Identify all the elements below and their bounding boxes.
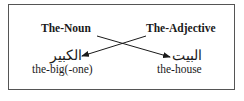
gloss-the-big-one: the-big(-one) <box>32 63 93 75</box>
arabic-the-big: الكبير <box>50 47 82 64</box>
arabic-the-house: البيت <box>172 47 202 64</box>
arrow-adjective-to-big <box>82 36 146 56</box>
arrow-noun-to-house <box>97 36 170 57</box>
crossing-arrows <box>0 0 244 101</box>
gloss-the-house: the-house <box>157 63 202 75</box>
